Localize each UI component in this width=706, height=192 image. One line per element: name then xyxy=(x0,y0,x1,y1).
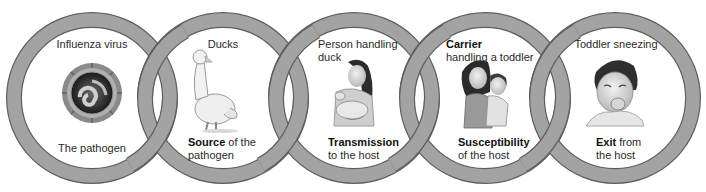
duck-illustration xyxy=(193,50,238,133)
link-2-bottom-rest: of the xyxy=(225,136,256,148)
link-4-bottom-bold: Susceptibility xyxy=(458,136,530,148)
link-1-top-label: Influenza virus xyxy=(52,38,132,51)
link-3-top-label: Person handling xyxy=(318,38,398,51)
toddler-sneezing-illustration xyxy=(586,60,644,126)
chain-of-infection-diagram xyxy=(0,0,706,192)
influenza-virus-illustration xyxy=(62,63,122,123)
link-5-top-label: Toddler sneezing xyxy=(570,38,662,51)
link-1-bottom-label: The pathogen xyxy=(52,142,132,155)
link-4-top-bold: Carrier xyxy=(446,38,482,50)
link-5-bottom-label: Exit from xyxy=(596,136,641,149)
link-3-bottom-label: Transmission xyxy=(328,136,399,149)
link-2-top-label: Ducks xyxy=(193,38,253,51)
link-2-bottom-bold: Source xyxy=(188,136,225,148)
woman-holding-duck-illustration xyxy=(334,60,374,126)
link-5-bottom-bold: Exit xyxy=(596,136,616,148)
link-2-bottom-line2: pathogen xyxy=(188,149,234,162)
link-4-top-label: Carrier xyxy=(446,38,482,51)
link-4-bottom-line2: of the host xyxy=(458,149,509,162)
link-5-bottom-rest: from xyxy=(616,136,641,148)
link-3-bottom-bold: Transmission xyxy=(328,136,399,148)
woman-holding-toddler-illustration xyxy=(462,60,508,128)
link-4-top-line2: handling a toddler xyxy=(446,51,533,64)
link-3-top-line2: duck xyxy=(318,51,341,64)
link-5-bottom-line2: the host xyxy=(596,149,635,162)
link-2-bottom-label: Source of the xyxy=(188,136,256,149)
link-3-bottom-line2: to the host xyxy=(328,149,379,162)
link-4-bottom-label: Susceptibility xyxy=(458,136,530,149)
